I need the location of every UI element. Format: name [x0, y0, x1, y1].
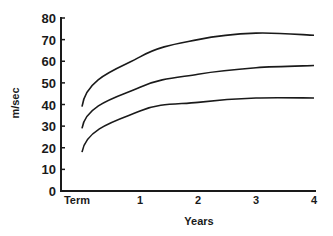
y-axis-title: m/sec [9, 87, 21, 118]
y-tick-label: 50 [42, 76, 56, 91]
x-tick-label: 1 [137, 194, 143, 206]
series-line-lower [82, 98, 314, 152]
y-tick-label: 60 [42, 54, 56, 69]
x-ticks: Term1234 [64, 194, 318, 206]
x-tick-label: 2 [195, 194, 201, 206]
y-tick-label: 70 [42, 33, 56, 48]
y-tick-label: 20 [42, 141, 56, 156]
y-tick-label: 30 [42, 119, 56, 134]
x-axis-title: Years [184, 215, 213, 227]
data-lines [82, 33, 314, 152]
x-tick-label: 3 [253, 194, 259, 206]
y-tick-label: 10 [42, 162, 56, 177]
velocity-chart: 01020304050607080 Term1234 m/sec Years [0, 0, 333, 236]
x-tick-label: Term [64, 194, 90, 206]
y-tick-label: 40 [42, 98, 56, 113]
y-tick-label: 0 [49, 184, 56, 199]
series-line-upper [82, 33, 314, 107]
y-tick-label: 80 [42, 11, 56, 26]
x-tick-label: 4 [311, 194, 318, 206]
